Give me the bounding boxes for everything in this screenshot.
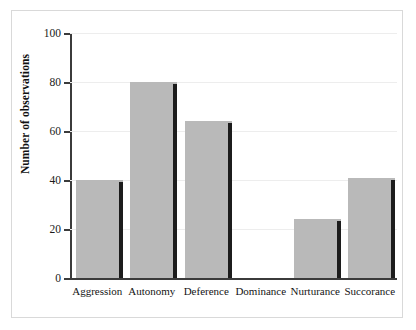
bar-shadow bbox=[337, 221, 341, 278]
bar bbox=[76, 180, 123, 278]
bar-slot bbox=[76, 33, 123, 278]
x-axis-label: Nurturance bbox=[288, 285, 343, 297]
bar-shadow bbox=[391, 180, 395, 278]
y-tick-mark bbox=[64, 33, 70, 35]
y-tick-label: 40 bbox=[50, 174, 62, 186]
y-tick-label: 80 bbox=[50, 76, 62, 88]
bar-shadow bbox=[228, 123, 232, 278]
bar-shadow bbox=[173, 84, 177, 278]
bar-shadow bbox=[119, 182, 123, 278]
bar bbox=[294, 219, 341, 278]
chart-figure: Number of observations 020406080100 Aggr… bbox=[0, 0, 416, 330]
y-tick-label: 60 bbox=[50, 125, 62, 137]
y-tick-mark bbox=[64, 229, 70, 231]
y-tick-label: 0 bbox=[55, 272, 61, 284]
y-axis-line bbox=[70, 33, 72, 278]
y-tick-label: 100 bbox=[44, 27, 61, 39]
bar-slot bbox=[294, 33, 341, 278]
x-axis-label: Dominance bbox=[234, 285, 289, 297]
y-axis-title: Number of observations bbox=[19, 34, 31, 194]
bar-slot bbox=[348, 33, 395, 278]
bar-slot bbox=[130, 33, 177, 278]
x-axis-label: Aggression bbox=[70, 285, 125, 297]
y-tick-mark bbox=[64, 131, 70, 133]
y-tick-mark bbox=[64, 180, 70, 182]
bar bbox=[130, 82, 177, 278]
y-tick-label: 20 bbox=[50, 223, 62, 235]
x-axis-label: Succorance bbox=[343, 285, 398, 297]
x-axis-label: Deference bbox=[179, 285, 234, 297]
bar-slot bbox=[239, 33, 286, 278]
bar bbox=[348, 178, 395, 278]
x-axis-label: Autonomy bbox=[125, 285, 180, 297]
bar-slot bbox=[185, 33, 232, 278]
bar bbox=[185, 121, 232, 278]
plot-area: 020406080100 AggressionAutonomyDeference… bbox=[70, 33, 397, 278]
y-tick-mark bbox=[64, 278, 70, 280]
x-axis-line bbox=[70, 278, 397, 280]
y-tick-mark bbox=[64, 82, 70, 84]
